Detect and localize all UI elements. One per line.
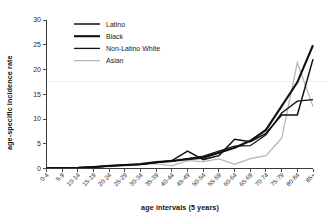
legend-label: Latino [106,21,125,28]
legend-label: Black [106,33,124,40]
y-tick-label: 0 [37,165,41,172]
y-tick-label: 15 [33,91,41,98]
legend-label: Asian [106,57,124,64]
y-tick-label: 30 [33,16,41,23]
chart-figure: 051015202530 0-45-910-1415-1920-2425-293… [0,0,328,224]
x-axis-title: age intervals (5 years) [141,203,219,212]
y-tick-label: 10 [33,115,41,122]
y-tick-label: 5 [37,140,41,147]
y-tick-label: 25 [33,41,41,48]
legend-label: Non-Latino White [106,45,160,52]
y-tick-label: 20 [33,66,41,73]
y-axis-title: age-specific incidence rate [5,55,14,150]
line-chart: 051015202530 0-45-910-1415-1920-2425-293… [0,0,328,224]
